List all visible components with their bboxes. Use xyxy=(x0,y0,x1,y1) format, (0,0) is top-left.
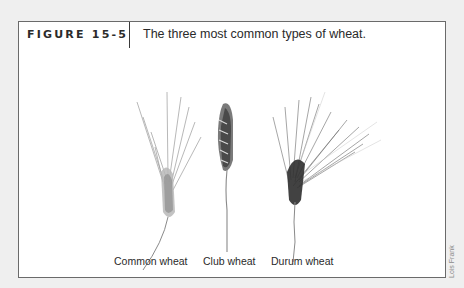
club-wheat-label: Club wheat xyxy=(203,255,256,267)
figure-box: FIGURE 15-5 The three most common types … xyxy=(18,21,446,278)
figure-header: FIGURE 15-5 The three most common types … xyxy=(19,22,445,48)
common-wheat-label: Common wheat xyxy=(114,255,188,267)
header-divider xyxy=(129,22,130,48)
figure-caption: The three most common types of wheat. xyxy=(143,27,366,41)
durum-wheat-image xyxy=(259,82,389,262)
photo-credit: Lois Frank xyxy=(448,245,455,278)
figure-label: FIGURE 15-5 xyxy=(27,28,128,41)
club-wheat-image xyxy=(201,90,251,255)
durum-wheat-label: Durum wheat xyxy=(271,255,333,267)
